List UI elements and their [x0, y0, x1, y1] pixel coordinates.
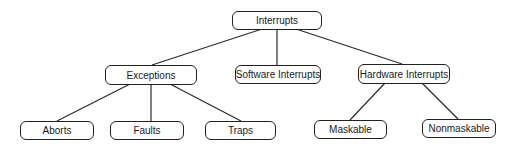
node-label: Hardware Interrupts — [360, 69, 448, 80]
edge-interrupts-exceptions — [152, 29, 262, 65]
edge-exceptions-aborts — [57, 84, 130, 121]
node-label: Nonmaskable — [428, 123, 489, 134]
node-label: Exceptions — [127, 70, 176, 81]
edge-interrupts-hardware — [296, 29, 402, 64]
interrupt-hierarchy-diagram: Interrupts Exceptions Software Interrupt… — [0, 0, 513, 147]
node-aborts: Aborts — [20, 121, 94, 140]
node-exceptions: Exceptions — [105, 65, 197, 85]
edge-exceptions-traps — [170, 84, 241, 121]
node-maskable: Maskable — [314, 120, 387, 139]
node-software-interrupts: Software Interrupts — [235, 65, 321, 84]
node-interrupts: Interrupts — [232, 11, 322, 30]
node-traps: Traps — [205, 121, 276, 140]
node-label: Software Interrupts — [236, 69, 320, 80]
node-label: Interrupts — [256, 15, 298, 26]
node-nonmaskable: Nonmaskable — [422, 119, 496, 138]
node-hardware-interrupts: Hardware Interrupts — [358, 64, 450, 84]
node-label: Traps — [228, 125, 253, 136]
edge-hardware-maskable — [350, 83, 385, 120]
node-label: Aborts — [43, 125, 72, 136]
node-label: Maskable — [329, 124, 372, 135]
node-label: Faults — [133, 125, 160, 136]
edge-hardware-nonmaskable — [422, 83, 458, 119]
node-faults: Faults — [110, 121, 184, 140]
